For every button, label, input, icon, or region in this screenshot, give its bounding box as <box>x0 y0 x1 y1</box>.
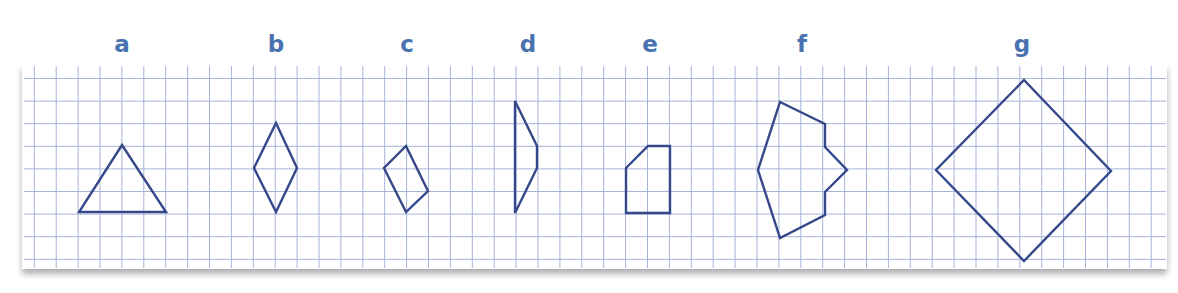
figure-label-b: b <box>268 31 284 57</box>
figure-label-f: f <box>797 31 808 57</box>
graph-paper <box>22 64 1167 269</box>
figure-label-e: e <box>642 31 658 57</box>
shapes-on-grid-diagram: abcdefg <box>0 0 1178 293</box>
figure-labels: abcdefg <box>114 31 1030 57</box>
figure-label-c: c <box>400 31 414 57</box>
figure-label-g: g <box>1014 31 1030 57</box>
figure-label-d: d <box>520 31 536 57</box>
figure-label-a: a <box>114 31 130 57</box>
